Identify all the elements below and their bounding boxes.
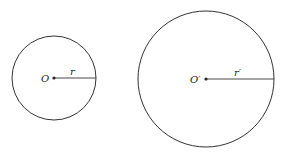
large-circle-group: O′ r′ <box>138 11 274 147</box>
two-circles-diagram: O r O′ r′ <box>0 0 284 158</box>
large-center-label: O′ <box>190 74 201 85</box>
small-center-label: O <box>41 73 49 84</box>
small-circle-group: O r <box>12 36 96 120</box>
small-radius-label: r <box>70 66 76 77</box>
large-radius-label: r′ <box>234 67 242 78</box>
